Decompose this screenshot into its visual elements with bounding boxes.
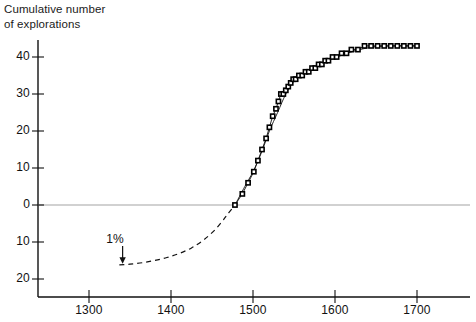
data-point-marker [339,51,343,55]
data-point-marker [276,99,280,103]
data-point-marker [233,203,237,207]
series-observed-markers [233,44,419,207]
y-tick-label: 0 [0,197,30,211]
y-tick-label: 30 [0,86,30,100]
data-point-marker [246,181,250,185]
data-point-marker [382,44,386,48]
data-point-marker [376,44,380,48]
y-tick-label: 20 [0,123,30,137]
data-point-marker [356,48,360,52]
data-point-marker [362,44,366,48]
data-point-marker [415,44,419,48]
data-point-marker [274,107,278,111]
data-point-marker [349,48,353,52]
x-tick-label: 1500 [231,303,275,317]
y-tick-label: 10 [0,234,30,248]
series-observed-line [235,46,417,205]
x-tick-label: 1400 [149,303,193,317]
chart-figure: Cumulative number of explorations 403020… [0,0,476,322]
y-tick-label: 20 [0,271,30,285]
data-point-marker [264,136,268,140]
annotation-1-percent-label: 1% [106,232,123,246]
data-point-marker [271,114,275,118]
x-tick-label: 1600 [313,303,357,317]
x-tick-label: 1300 [67,303,111,317]
y-tick-label: 40 [0,49,30,63]
data-point-marker [344,51,348,55]
data-point-marker [402,44,406,48]
plot-area [0,0,476,322]
data-point-marker [252,170,256,174]
data-point-marker [256,159,260,163]
data-point-marker [260,147,264,151]
data-point-marker [389,44,393,48]
data-point-marker [408,44,412,48]
data-point-marker [395,44,399,48]
data-point-marker [335,55,339,59]
x-tick-label: 1700 [395,303,439,317]
series-fitted-curve [235,46,417,205]
annotation-arrow [119,246,125,264]
data-point-marker [240,192,244,196]
y-tick-label: 10 [0,160,30,174]
data-point-marker [369,44,373,48]
series-extrapolated-tail [119,205,235,265]
data-point-marker [267,125,271,129]
